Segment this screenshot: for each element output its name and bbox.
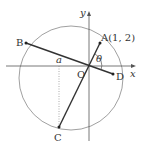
segment-ac bbox=[59, 43, 100, 127]
point-b bbox=[25, 42, 28, 45]
theta-label: θ bbox=[96, 53, 102, 64]
label-o: O bbox=[77, 69, 85, 80]
point-d bbox=[112, 73, 115, 76]
a-label: a bbox=[56, 54, 62, 65]
geometry-figure: A(1, 2) B C D O x y θ a bbox=[0, 0, 143, 160]
label-d: D bbox=[116, 71, 124, 82]
y-axis-label: y bbox=[79, 7, 86, 18]
y-axis-arrow-icon bbox=[87, 11, 91, 16]
label-b: B bbox=[16, 37, 23, 48]
label-a: A(1, 2) bbox=[100, 32, 135, 43]
x-axis-label: x bbox=[130, 68, 136, 79]
label-c: C bbox=[54, 132, 62, 143]
point-c bbox=[58, 126, 61, 129]
